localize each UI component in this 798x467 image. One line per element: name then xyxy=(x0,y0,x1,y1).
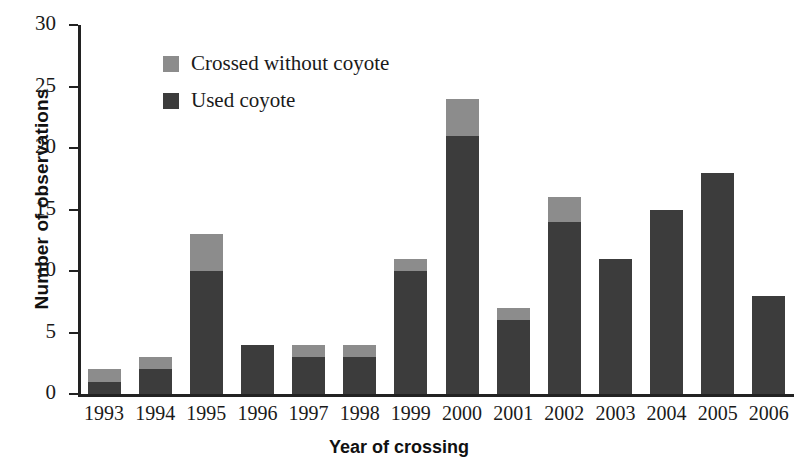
bar-segment-used-coyote xyxy=(139,369,172,394)
x-axis-tick-label-2003: 2003 xyxy=(595,403,635,423)
y-axis-tick: 30 xyxy=(69,24,78,26)
x-axis-tick-label-1994: 1994 xyxy=(135,403,175,423)
bar-segment-used-coyote xyxy=(446,136,479,394)
legend-swatch-icon-light xyxy=(163,56,179,72)
bar-segment-used-coyote xyxy=(190,271,223,394)
y-axis-tick: 20 xyxy=(69,147,78,149)
bar-1998 xyxy=(343,345,376,394)
bar-segment-used-coyote xyxy=(497,320,530,394)
y-axis-tick-label: 5 xyxy=(46,321,57,342)
x-axis-tick-label-2000: 2000 xyxy=(442,403,482,423)
bar-segment-used-coyote xyxy=(292,357,325,394)
bar-1994 xyxy=(139,357,172,394)
y-axis-tick-label: 25 xyxy=(35,75,56,96)
x-axis-tick-label-1997: 1997 xyxy=(289,403,329,423)
x-axis-tick-label-2001: 2001 xyxy=(493,403,533,423)
bar-segment-crossed-without-coyote xyxy=(343,345,376,357)
bar-segment-crossed-without-coyote xyxy=(446,99,479,136)
bar-segment-crossed-without-coyote xyxy=(139,357,172,369)
x-axis-title: Year of crossing xyxy=(0,437,798,458)
y-axis-line xyxy=(78,25,81,394)
bar-2000 xyxy=(446,99,479,394)
x-axis-tick-label-2004: 2004 xyxy=(647,403,687,423)
bar-2006 xyxy=(752,296,785,394)
y-axis-tick: 5 xyxy=(69,332,78,334)
bar-segment-used-coyote xyxy=(88,382,121,394)
y-axis-tick: 25 xyxy=(69,86,78,88)
x-axis-tick-label-1993: 1993 xyxy=(84,403,124,423)
bar-segment-used-coyote xyxy=(548,222,581,394)
bar-2004 xyxy=(650,210,683,395)
bar-1995 xyxy=(190,234,223,394)
y-axis-tick: 0 xyxy=(69,393,78,395)
bar-2001 xyxy=(497,308,530,394)
bar-segment-used-coyote xyxy=(394,271,427,394)
bar-segment-crossed-without-coyote xyxy=(292,345,325,357)
bar-segment-used-coyote xyxy=(599,259,632,394)
bar-chart-figure: Number of observations 051015202530 1993… xyxy=(0,0,798,467)
bar-segment-used-coyote xyxy=(701,173,734,394)
y-axis-tick-label: 10 xyxy=(35,259,56,280)
legend-swatch-icon-dark xyxy=(163,93,179,109)
bar-1993 xyxy=(88,369,121,394)
bar-segment-crossed-without-coyote xyxy=(497,308,530,320)
legend-item-used-coyote: Used coyote xyxy=(163,82,389,119)
legend-label-used-coyote: Used coyote xyxy=(191,90,295,111)
bar-segment-used-coyote xyxy=(343,357,376,394)
legend-item-crossed-without-coyote: Crossed without coyote xyxy=(163,45,389,82)
bar-segment-crossed-without-coyote xyxy=(88,369,121,381)
x-axis-tick-label-2005: 2005 xyxy=(698,403,738,423)
y-axis-tick-label: 0 xyxy=(46,382,57,403)
bar-segment-used-coyote xyxy=(752,296,785,394)
bar-2002 xyxy=(548,197,581,394)
y-axis-tick: 15 xyxy=(69,209,78,211)
x-axis-tick-label-1999: 1999 xyxy=(391,403,431,423)
bar-2003 xyxy=(599,259,632,394)
bar-segment-used-coyote xyxy=(650,210,683,395)
bar-segment-crossed-without-coyote xyxy=(190,234,223,271)
bar-1996 xyxy=(241,345,274,394)
bar-1999 xyxy=(394,259,427,394)
legend-label-crossed-without-coyote: Crossed without coyote xyxy=(191,53,389,74)
y-axis-tick-label: 15 xyxy=(35,198,56,219)
x-axis-tick-label-1995: 1995 xyxy=(186,403,226,423)
x-axis-line xyxy=(78,394,794,397)
bar-segment-used-coyote xyxy=(241,345,274,394)
y-axis-tick: 10 xyxy=(69,270,78,272)
x-axis-tick-label-1996: 1996 xyxy=(237,403,277,423)
x-axis-tick-label-2002: 2002 xyxy=(544,403,584,423)
x-axis-tick-label-2006: 2006 xyxy=(749,403,789,423)
y-axis-tick-label: 20 xyxy=(35,136,56,157)
y-axis-tick-label: 30 xyxy=(35,13,56,34)
chart-legend: Crossed without coyote Used coyote xyxy=(163,45,389,119)
bar-segment-crossed-without-coyote xyxy=(548,197,581,222)
x-axis-tick-label-1998: 1998 xyxy=(340,403,380,423)
bar-2005 xyxy=(701,173,734,394)
bar-segment-crossed-without-coyote xyxy=(394,259,427,271)
bar-1997 xyxy=(292,345,325,394)
